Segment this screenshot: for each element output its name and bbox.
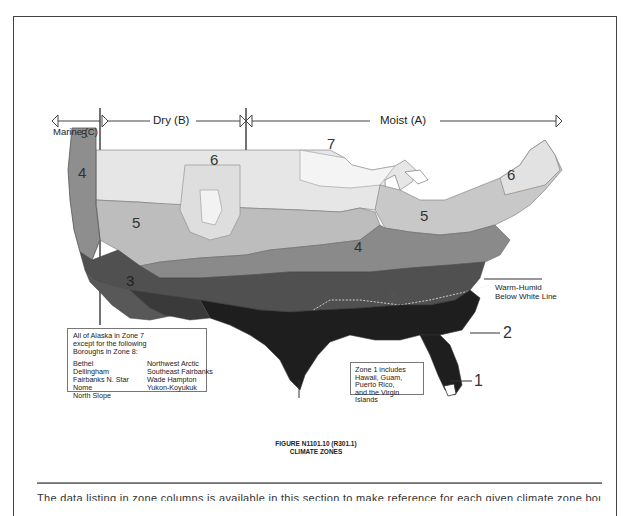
figure-title-line1: FIGURE N1101.10 (R301.1) <box>0 440 632 448</box>
horizontal-rule <box>37 482 602 484</box>
florida <box>420 335 462 395</box>
alaska-note-box: All of Alaska in Zone 7 except for the f… <box>67 328 207 392</box>
zone-label-north-7: 7 <box>327 135 335 152</box>
borough: North Slope <box>73 392 129 400</box>
zone-label-southeast-3: 3 <box>388 288 396 305</box>
alaska-header-line3: Boroughs in Zone 8: <box>73 348 201 356</box>
warm-humid-line1: Warm-Humid <box>495 283 557 292</box>
zone-label-east-6: 6 <box>507 166 515 183</box>
borough: Yukon-Koyukuk <box>147 384 213 392</box>
dry-regime-label: Dry (B) <box>153 114 189 126</box>
zone-label-callout-2: 2 <box>503 324 512 342</box>
warm-humid-line2: Below White Line <box>495 292 557 301</box>
zone-label-callout-1: 1 <box>474 372 483 390</box>
warm-humid-annotation: Warm-Humid Below White Line <box>495 283 557 301</box>
zone-label-marine-5: 5 <box>81 128 87 140</box>
zone-label-marine-4: 4 <box>78 164 86 181</box>
figure-title-line2: CLIMATE ZONES <box>0 448 632 456</box>
zone-label-central-4: 4 <box>354 238 362 255</box>
figure-caption: FIGURE N1101.10 (R301.1) CLIMATE ZONES <box>0 440 632 455</box>
marine-regime-label: Marine (C) <box>53 126 98 137</box>
zone1-line4: and the Virgin Islands <box>355 389 419 404</box>
moist-regime-label: Moist (A) <box>380 114 426 126</box>
zone-label-west-5: 5 <box>132 214 140 231</box>
zone-label-west-6: 6 <box>210 151 218 168</box>
zone-1-south-florida <box>444 384 456 396</box>
zone-label-southwest-3: 3 <box>126 272 134 289</box>
zone-label-east-5: 5 <box>420 207 428 224</box>
zone1-note-box: Zone 1 includes Hawaii, Guam, Puerto Ric… <box>350 362 424 395</box>
zone-7-north <box>300 150 395 188</box>
alaska-boroughs-col1: Bethel Dellingham Fairbanks N. Star Nome… <box>73 360 129 400</box>
zone-4-5-marine <box>68 128 100 260</box>
alaska-boroughs-col2: Northwest Arctic Southeast Fairbanks Wad… <box>147 360 213 400</box>
body-text-partial: The data listing in zone columns is avai… <box>37 492 602 501</box>
